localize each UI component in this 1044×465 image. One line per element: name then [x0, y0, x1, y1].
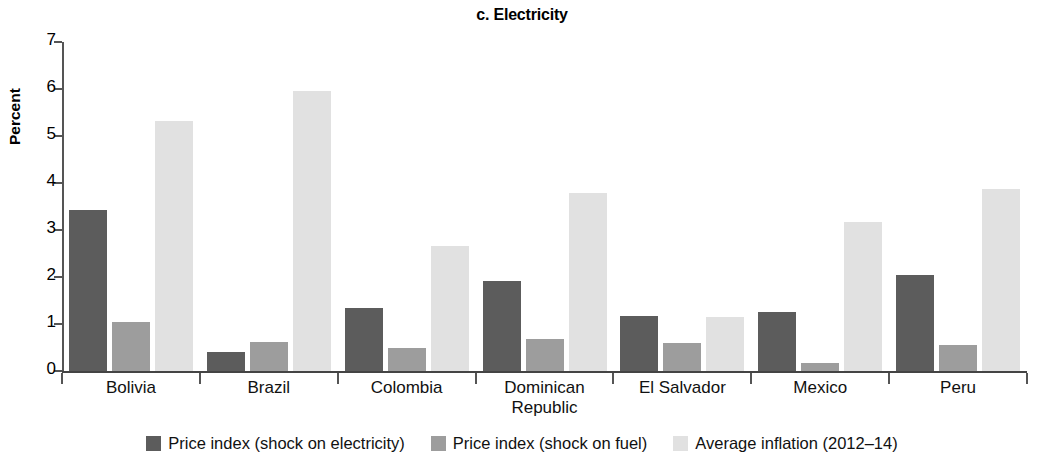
- legend-swatch-icon: [431, 436, 446, 451]
- bar: [663, 343, 701, 371]
- legend-label: Average inflation (2012–14): [695, 434, 897, 453]
- y-axis-tick-label: 0: [47, 360, 56, 377]
- bar-group: [69, 42, 193, 371]
- legend-item: Price index (shock on electricity): [146, 434, 405, 453]
- x-axis-category-label: El Salvador: [613, 378, 751, 398]
- y-axis-tick-label: 7: [47, 31, 56, 48]
- x-axis-line: [62, 371, 1027, 373]
- bar: [431, 246, 469, 371]
- y-axis-tick-label: 1: [47, 313, 56, 330]
- bar: [345, 308, 383, 371]
- bar: [483, 281, 521, 371]
- legend-swatch-icon: [146, 436, 161, 451]
- bar: [293, 91, 331, 371]
- bar: [844, 222, 882, 371]
- bar-group: [345, 42, 469, 371]
- legend-swatch-icon: [673, 436, 688, 451]
- y-axis-tick-label: 3: [47, 219, 56, 236]
- bar: [388, 348, 426, 372]
- x-axis-category-label: Bolivia: [62, 378, 200, 398]
- bar: [155, 121, 193, 371]
- bar: [982, 189, 1020, 371]
- chart-figure: c. Electricity Percent 01234567 BoliviaB…: [0, 0, 1044, 465]
- x-axis-category-label: Brazil: [200, 378, 338, 398]
- x-axis-category-label-line: Mexico: [751, 378, 889, 398]
- chart-legend: Price index (shock on electricity)Price …: [0, 434, 1044, 453]
- y-axis-title: Percent: [6, 88, 24, 145]
- bar: [250, 342, 288, 371]
- chart-title: c. Electricity: [0, 6, 1044, 24]
- bar: [801, 363, 839, 371]
- x-axis-category-label-line: Colombia: [338, 378, 476, 398]
- x-axis-category-label-line: Peru: [889, 378, 1027, 398]
- bar-group: [758, 42, 882, 371]
- bar: [758, 312, 796, 371]
- x-axis-category-label: Peru: [889, 378, 1027, 398]
- bar: [569, 193, 607, 371]
- x-axis-category-label-line: Dominican: [476, 378, 614, 398]
- bar-group: [207, 42, 331, 371]
- y-axis-tick-label: 5: [47, 125, 56, 142]
- bar: [526, 339, 564, 371]
- bar-group: [483, 42, 607, 371]
- bar-group: [896, 42, 1020, 371]
- bar: [939, 345, 977, 371]
- x-axis-category-labels: BoliviaBrazilColombiaDominicanRepublicEl…: [62, 378, 1027, 424]
- x-axis-category-label: Colombia: [338, 378, 476, 398]
- plot-area: 01234567: [62, 42, 1027, 371]
- x-axis-category-label: Mexico: [751, 378, 889, 398]
- bar: [896, 275, 934, 371]
- x-axis-category-label-line: El Salvador: [613, 378, 751, 398]
- bar: [706, 317, 744, 371]
- x-axis-category-label-line: Republic: [476, 398, 614, 418]
- legend-item: Average inflation (2012–14): [673, 434, 897, 453]
- bar-groups: [62, 42, 1027, 371]
- y-axis-tick-label: 2: [47, 266, 56, 283]
- x-axis-category-label-line: Brazil: [200, 378, 338, 398]
- bar: [69, 210, 107, 371]
- legend-item: Price index (shock on fuel): [431, 434, 647, 453]
- bar-group: [620, 42, 744, 371]
- x-axis-category-label-line: Bolivia: [62, 378, 200, 398]
- y-axis-tick-label: 4: [47, 172, 56, 189]
- bar: [620, 316, 658, 371]
- legend-label: Price index (shock on electricity): [168, 434, 405, 453]
- bar: [207, 352, 245, 371]
- y-axis-tick-label: 6: [47, 78, 56, 95]
- x-axis-category-label: DominicanRepublic: [476, 378, 614, 418]
- bar: [112, 322, 150, 371]
- legend-label: Price index (shock on fuel): [453, 434, 647, 453]
